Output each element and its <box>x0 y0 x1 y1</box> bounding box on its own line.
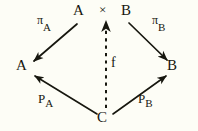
node-product-right-factor: B <box>121 3 131 18</box>
edge-label-pi-b-sub: B <box>158 21 165 33</box>
edge-label-p-b-sub: B <box>145 97 152 109</box>
product-times-symbol: × <box>99 3 106 16</box>
edge-label-p-b: PB <box>138 90 153 106</box>
edge-label-f: f <box>111 56 116 70</box>
node-object-c: C <box>97 110 107 125</box>
node-product-left-factor: A <box>73 3 84 18</box>
edge-label-pi-b: πB <box>152 14 165 30</box>
node-object-b: B <box>167 58 177 73</box>
edge-label-p-a-sub: A <box>45 97 53 109</box>
edge-label-pi-a-sub: A <box>43 21 51 33</box>
edge-label-p-a: PA <box>38 90 53 106</box>
node-object-a: A <box>16 58 27 73</box>
diagram-canvas: A × B A B C πA πB PA PB f <box>0 0 198 131</box>
edge-label-pi-a: πA <box>37 14 51 30</box>
